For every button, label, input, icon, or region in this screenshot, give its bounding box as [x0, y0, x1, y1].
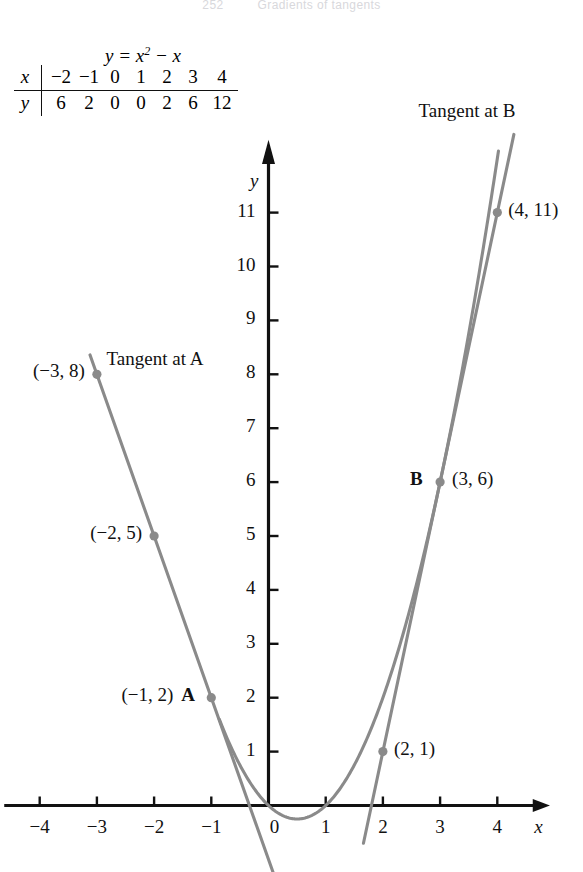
- x-tick-label: −2: [144, 816, 164, 838]
- data-point-marker: [207, 693, 216, 702]
- x-tick-label: 2: [378, 816, 388, 838]
- x-tick-label: 4: [493, 816, 503, 838]
- y-tick-label: 6: [246, 469, 256, 491]
- point-label-(3,6): (3, 6): [452, 468, 493, 490]
- point-label-(-1,2): (−1, 2): [121, 684, 173, 706]
- y-axis-arrow: [262, 140, 275, 164]
- tangent-a-label: Tangent at A: [107, 348, 204, 370]
- data-point-marker: [493, 208, 502, 217]
- x-axis-label: x: [534, 816, 542, 838]
- data-point-marker: [150, 531, 159, 540]
- y-tick-label: 10: [237, 254, 256, 276]
- y-axis-label: y: [250, 170, 258, 192]
- y-tick-label: 11: [237, 200, 255, 222]
- point-letter-a: A: [181, 684, 195, 706]
- x-tick-label: 1: [321, 816, 331, 838]
- x-tick-label: 3: [435, 816, 445, 838]
- y-tick-label: 1: [246, 739, 256, 761]
- x-tick-label: −3: [87, 816, 107, 838]
- y-tick-label: 2: [246, 685, 256, 707]
- point-label-(-3,8): (−3, 8): [33, 360, 85, 382]
- y-tick-label: 8: [246, 361, 256, 383]
- y-tick-label: 5: [246, 523, 256, 545]
- x-tick-label: −1: [201, 816, 221, 838]
- graph-area: −4−3−2−101234x1234567891011yTangent at A…: [0, 0, 583, 872]
- point-label-(2,1): (2, 1): [394, 738, 435, 760]
- y-tick-label: 3: [246, 631, 256, 653]
- x-tick-label: −4: [30, 816, 50, 838]
- y-tick-label: 4: [246, 577, 256, 599]
- x-tick-label: 0: [270, 816, 280, 838]
- data-point-marker: [436, 478, 445, 487]
- tangent-b-label: Tangent at B: [419, 100, 516, 122]
- point-letter-b: B: [410, 468, 423, 490]
- y-tick-label: 7: [246, 415, 256, 437]
- x-axis-arrow: [533, 799, 550, 812]
- data-point-marker: [92, 370, 101, 379]
- graph-svg: [0, 0, 583, 872]
- y-tick-label: 9: [246, 307, 256, 329]
- point-label-(-2,5): (−2, 5): [90, 522, 142, 544]
- figure-page: 252Gradients of tangents y = x2 − x x −2…: [0, 0, 583, 872]
- point-label-(4,11): (4, 11): [508, 199, 558, 221]
- data-point-marker: [378, 747, 387, 756]
